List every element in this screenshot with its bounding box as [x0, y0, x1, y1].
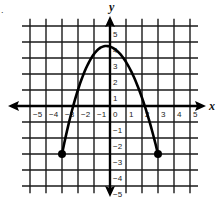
- x-tick-label: −1: [97, 110, 107, 119]
- y-tick-label: −3: [113, 158, 123, 167]
- y-tick-label: −1: [113, 126, 123, 135]
- x-tick-label: −4: [49, 110, 59, 119]
- y-tick-label: 1: [113, 94, 118, 103]
- x-tick-label: 0: [113, 110, 118, 119]
- y-tick-label: 2: [113, 78, 118, 87]
- x-tick-label: 4: [177, 110, 182, 119]
- tick-labels: −5−4−3−2−101234554321−1−2−3−4−5: [33, 30, 198, 199]
- x-tick-label: 1: [129, 110, 134, 119]
- y-tick-label: −4: [113, 174, 123, 183]
- y-axis-label: y: [107, 0, 115, 14]
- right-endpoint-dot: [154, 150, 162, 158]
- x-tick-label: 3: [161, 110, 166, 119]
- x-axis-label: x: [208, 99, 215, 113]
- x-tick-label: −5: [33, 110, 43, 119]
- y-tick-label: −5: [113, 190, 123, 199]
- y-tick-label: −2: [113, 142, 123, 151]
- left-endpoint-dot: [58, 150, 66, 158]
- x-tick-label: −2: [81, 110, 91, 119]
- y-tick-label: 5: [113, 30, 118, 39]
- x-tick-label: 5: [193, 110, 198, 119]
- coordinate-plane: −5−4−3−2−101234554321−1−2−3−4−5 x y: [0, 0, 220, 199]
- y-tick-label: 3: [113, 62, 118, 71]
